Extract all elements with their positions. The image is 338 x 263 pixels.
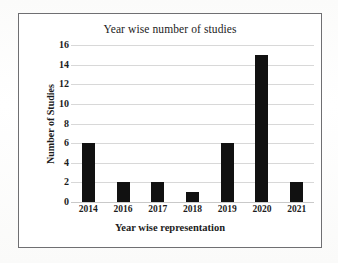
y-tick-label-0: 0 xyxy=(64,197,69,207)
plot-area xyxy=(71,45,314,202)
bar-2021 xyxy=(290,182,303,202)
x-tick-label-2016: 2016 xyxy=(114,205,133,215)
y-tick-label-2: 2 xyxy=(64,177,69,187)
bar-2017 xyxy=(151,182,164,202)
y-tick-label-6: 6 xyxy=(64,138,69,148)
x-axis-title: Year wise representation xyxy=(19,222,321,233)
y-tick-label-14: 14 xyxy=(59,60,69,70)
y-tick-label-4: 4 xyxy=(64,158,69,168)
bar-2020 xyxy=(255,55,268,202)
bar-2014 xyxy=(82,143,95,202)
chart-title: Year wise number of studies xyxy=(19,23,321,35)
x-tick-label-2018: 2018 xyxy=(183,205,202,215)
x-tick-label-2014: 2014 xyxy=(79,205,98,215)
x-axis-tick-labels: 2014201620172018201920202021 xyxy=(71,205,314,219)
bar-series xyxy=(71,45,314,202)
bar-2018 xyxy=(186,192,199,202)
bar-2016 xyxy=(117,182,130,202)
x-tick-label-2019: 2019 xyxy=(218,205,237,215)
y-axis-tick-labels: 0246810121416 xyxy=(33,45,69,202)
y-tick-label-10: 10 xyxy=(59,99,69,109)
chart-frame: Year wise number of studies Number of St… xyxy=(18,13,322,248)
y-tick-label-8: 8 xyxy=(64,119,69,129)
x-tick-label-2020: 2020 xyxy=(252,205,271,215)
gridline-0 xyxy=(71,202,314,203)
x-tick-label-2017: 2017 xyxy=(148,205,167,215)
y-tick-label-16: 16 xyxy=(59,40,69,50)
bar-2019 xyxy=(221,143,234,202)
y-tick-label-12: 12 xyxy=(59,79,69,89)
chart-figure: Year wise number of studies Number of St… xyxy=(0,0,338,263)
x-tick-label-2021: 2021 xyxy=(287,205,306,215)
